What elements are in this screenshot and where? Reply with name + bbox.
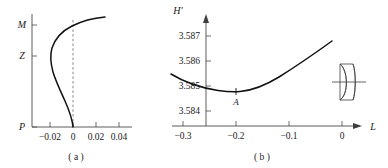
chart-b-xticklabel-m03: −0.3 (174, 131, 191, 141)
chart-a-caption: ( a ) (68, 152, 83, 163)
figure-container: M Z P −0.02 0 0.02 0.04 ( a ) (0, 0, 388, 168)
chart-panel-b: H′ L 3.587 3.586 3.585 3.584 −0.3 −0.2 −… (150, 0, 388, 168)
chart-a-ylabel-z: Z (19, 50, 25, 61)
chart-b-y-axis-arrow (203, 14, 209, 23)
chart-b-x-axis-arrow (353, 123, 362, 129)
chart-b-svg: H′ L 3.587 3.586 3.585 3.584 −0.3 −0.2 −… (150, 0, 388, 168)
chart-b-caption: ( b ) (254, 152, 270, 163)
chart-b-point-a-label: A (232, 97, 239, 107)
chart-b-x-axis-name: L (369, 121, 376, 132)
chart-a-ylabel-p: P (18, 121, 25, 132)
chart-b-yticklabel-3584: 3.584 (179, 106, 201, 116)
chart-b-y-axis-name: H′ (172, 5, 183, 16)
chart-panel-a: M Z P −0.02 0 0.02 0.04 ( a ) (0, 0, 160, 168)
chart-b-yticklabel-3586: 3.586 (179, 56, 201, 66)
chart-b-xticklabel-m02: −0.2 (227, 131, 244, 141)
chart-a-xticklabel-2: 0.02 (88, 132, 105, 142)
chart-a-xticklabel-0: −0.02 (39, 132, 61, 142)
chart-a-svg: M Z P −0.02 0 0.02 0.04 ( a ) (0, 0, 160, 168)
chart-a-ylabel-m: M (17, 19, 27, 30)
chart-a-xticklabel-3: 0.04 (111, 132, 128, 142)
chart-a-curve (51, 17, 105, 127)
chart-b-yticklabel-3587: 3.587 (179, 31, 201, 41)
chart-b-xticklabel-m01: −0.1 (280, 131, 297, 141)
chart-a-xticklabel-1: 0 (71, 132, 76, 142)
chart-b-xticklabel-0: 0 (340, 131, 345, 141)
meniscus-lens-icon (332, 64, 366, 100)
